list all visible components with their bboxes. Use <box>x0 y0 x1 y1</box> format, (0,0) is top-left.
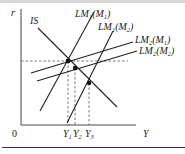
lm1-m1-label: LM1(M1) <box>74 8 111 20</box>
bottom-rule <box>2 147 185 148</box>
lm1-m2-curve <box>67 31 113 123</box>
origin-label: 0 <box>12 128 17 139</box>
y3-label: Y3 <box>85 128 95 140</box>
equilibrium-point-1 <box>66 59 71 64</box>
lm1-m2-label: LM1(M2) <box>97 21 134 33</box>
equilibrium-point-2 <box>73 66 77 70</box>
lm2-m1-curve <box>31 42 133 73</box>
y2-label: Y2 <box>73 128 83 140</box>
x-axis-label: Y <box>143 128 150 139</box>
is-lm-diagram: r Y 0 IS LM1(M1) LM1(M2) LM2(M1) LM2(M2)… <box>0 0 185 154</box>
equilibrium-point-3 <box>87 81 91 85</box>
is-label: IS <box>29 15 38 26</box>
y1-label: Y1 <box>63 128 72 140</box>
y-axis-label: r <box>11 7 15 18</box>
lm2-m2-label: LM2(M2) <box>138 45 175 57</box>
